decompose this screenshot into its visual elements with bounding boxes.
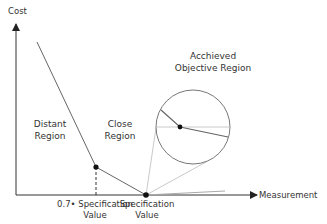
point-magnified [178, 125, 183, 130]
x-axis-label: Measurement [259, 190, 317, 201]
point-0.7-spec [93, 164, 98, 169]
point-spec [143, 192, 149, 198]
close-region-label: Close Region [90, 118, 150, 142]
y-axis-label: Cost [8, 6, 27, 17]
distant-region-label: Distant Region [18, 118, 82, 142]
achieved-region-label: Acchieved Objective Region [158, 50, 268, 74]
cost-curve-tail [146, 191, 225, 195]
zoom-connector-right [146, 162, 206, 195]
tick-spec-value: Specification Value [116, 199, 178, 221]
